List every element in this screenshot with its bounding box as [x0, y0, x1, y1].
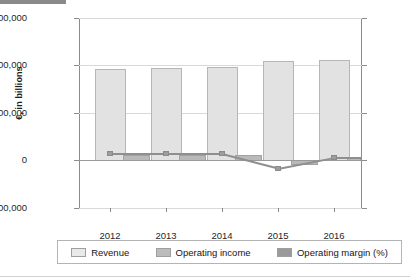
chart-legend: Revenue Operating income Operating margi…: [57, 240, 402, 264]
legend-item-operating-margin[interactable]: Operating margin (%): [277, 247, 388, 258]
xtick-2013: [166, 208, 167, 212]
ytick-left-4: [74, 208, 79, 209]
bar-revenue-2013: [151, 68, 182, 161]
ytick-right-2: [362, 113, 367, 114]
top-edge-strip: [0, 0, 66, 4]
margin-segment-2016-end: [334, 157, 362, 159]
ytick-right-1: [362, 65, 367, 66]
ytick-left-1: [74, 65, 79, 66]
plot-area: 300,000 200,000 100,000 0 -100,000 100% …: [79, 18, 362, 208]
xtick-2015: [278, 208, 279, 212]
xtick-2014: [222, 208, 223, 212]
margin-point-2015: [275, 166, 281, 171]
ytick-label-left-300000: 300,000: [0, 12, 27, 23]
margin-point-2014: [219, 151, 225, 156]
legend-label-operating-income: Operating income: [176, 247, 251, 258]
legend-label-revenue: Revenue: [91, 247, 129, 258]
ytick-label-left-0: 0: [0, 154, 27, 165]
legend-label-operating-margin: Operating margin (%): [297, 247, 388, 258]
ytick-label-left-200000: 200,000: [0, 59, 27, 70]
ytick-left-0: [74, 18, 79, 19]
ytick-label-left-100000: 100,000: [0, 107, 27, 118]
legend-item-revenue[interactable]: Revenue: [71, 247, 129, 258]
bottom-divider: [0, 276, 410, 277]
bar-revenue-2015: [263, 61, 294, 161]
bar-revenue-2012: [95, 69, 126, 161]
margin-point-2012: [107, 151, 113, 156]
margin-point-2016: [331, 155, 337, 160]
gridline-300000: [79, 18, 362, 19]
ytick-right-3: [362, 160, 367, 161]
chart-container: €, in billions: [0, 0, 410, 280]
ytick-right-4: [362, 208, 367, 209]
xtick-2016: [334, 208, 335, 212]
y-axis-left-title: €, in billions: [14, 38, 24, 148]
margin-segment-2012-2013: [110, 153, 166, 155]
legend-swatch-operating-income: [156, 248, 171, 257]
ytick-left-2: [74, 113, 79, 114]
bar-revenue-2014: [207, 67, 238, 161]
legend-item-operating-income[interactable]: Operating income: [156, 247, 251, 258]
margin-segment-2013-2014: [166, 153, 222, 155]
xtick-2012: [110, 208, 111, 212]
margin-point-2013: [163, 151, 169, 156]
bar-revenue-2016: [319, 60, 350, 161]
gridline-minus100000: [79, 208, 362, 209]
ytick-left-3: [74, 160, 79, 161]
ytick-right-0: [362, 18, 367, 19]
legend-swatch-operating-margin: [277, 248, 292, 257]
legend-swatch-revenue: [71, 248, 86, 257]
ytick-label-left-minus100000: -100,000: [0, 202, 27, 213]
